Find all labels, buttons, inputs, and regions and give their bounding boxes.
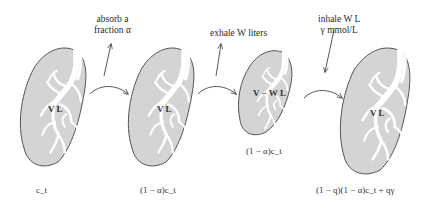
transition-arrow-3 (304, 91, 342, 99)
volume-label-3: V − W L (253, 88, 286, 98)
volume-label-2: V L (157, 104, 172, 114)
volume-label-1: V L (48, 104, 63, 114)
volume-label-4: V L (370, 108, 385, 118)
concentration-label-2: (1 − α)c_t (140, 185, 176, 195)
concentration-label-4: (1 − q)(1 − α)c_t + qγ (316, 185, 394, 195)
exhale-label: exhale W liters (210, 28, 267, 39)
absorb-label: absorb a fraction α (94, 14, 131, 36)
inhale-label: inhale W L γ mmol/L (318, 14, 360, 36)
inhale-arrow (325, 30, 334, 72)
exhale-arrow (216, 44, 221, 76)
inhale-label-line2: γ mmol/L (318, 25, 360, 36)
absorb-arrow (104, 44, 111, 76)
exhale-label-line1: exhale W liters (210, 28, 267, 39)
lung-breath-cycle-diagram: absorb a fraction α exhale W liters inha… (0, 0, 432, 208)
absorb-label-line2: fraction α (94, 25, 131, 36)
concentration-label-1: c_t (36, 185, 47, 195)
transition-arrow-2 (198, 87, 236, 95)
transition-arrow-1 (90, 87, 128, 95)
concentration-label-3: (1 − α)c_t (246, 146, 282, 156)
inhale-label-line1: inhale W L (318, 14, 360, 25)
absorb-label-line1: absorb a (94, 14, 131, 25)
